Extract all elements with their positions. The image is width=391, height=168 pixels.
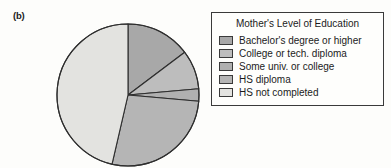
legend-swatch	[219, 88, 233, 97]
legend-item: College or tech. diploma	[219, 47, 376, 60]
legend-item-label: College or tech. diploma	[239, 47, 347, 60]
legend-item-label: Bachelor's degree or higher	[239, 34, 362, 47]
legend-item: HS diploma	[219, 73, 376, 86]
legend-item-label: HS not completed	[239, 86, 319, 99]
pie-chart	[0, 0, 210, 168]
legend-item: Bachelor's degree or higher	[219, 34, 376, 47]
pie-slice	[57, 24, 128, 164]
legend-title: Mother's Level of Education	[219, 18, 376, 30]
pie-chart-svg	[0, 0, 210, 168]
legend-swatch	[219, 62, 233, 71]
legend-item: HS not completed	[219, 86, 376, 99]
legend-items: Bachelor's degree or higherCollege or te…	[219, 34, 376, 99]
legend-item-label: HS diploma	[239, 73, 291, 86]
pie-slice-group	[57, 24, 199, 166]
legend-item-label: Some univ. or college	[239, 60, 334, 73]
legend: Mother's Level of Education Bachelor's d…	[211, 12, 384, 106]
legend-item: Some univ. or college	[219, 60, 376, 73]
legend-swatch	[219, 75, 233, 84]
legend-swatch	[219, 36, 233, 45]
legend-swatch	[219, 49, 233, 58]
